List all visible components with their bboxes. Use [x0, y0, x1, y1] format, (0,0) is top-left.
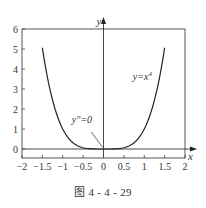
svg-text:1.5: 1.5 — [158, 161, 171, 172]
svg-text:1: 1 — [142, 161, 147, 172]
svg-text:2: 2 — [183, 161, 188, 172]
svg-text:−0.5: −0.5 — [74, 161, 92, 172]
svg-text:−2: −2 — [17, 161, 28, 172]
inflection-label: y″=0 — [71, 114, 92, 125]
svg-text:−1: −1 — [57, 161, 68, 172]
svg-text:2: 2 — [13, 104, 18, 115]
x-axis-label: x — [187, 150, 193, 162]
y-axis-label: y — [96, 15, 102, 27]
svg-text:0: 0 — [101, 161, 106, 172]
svg-text:6: 6 — [13, 24, 18, 35]
y-arrow-icon — [101, 17, 106, 24]
figure-caption: 图 4 - 4 - 29 — [0, 183, 206, 199]
svg-text:4: 4 — [13, 64, 18, 75]
svg-text:−1.5: −1.5 — [33, 161, 51, 172]
svg-text:0: 0 — [13, 144, 18, 155]
chart-canvas: 0123456−2−1.5−1−0.500.511.52yx y=x4y″=0 — [0, 0, 206, 208]
inflection-pointer — [91, 132, 102, 147]
svg-text:5: 5 — [13, 44, 18, 55]
svg-text:3: 3 — [13, 84, 18, 95]
svg-text:0.5: 0.5 — [118, 161, 131, 172]
axes — [22, 17, 197, 158]
svg-text:1: 1 — [13, 124, 18, 135]
curve-label: y=x4 — [132, 70, 153, 82]
